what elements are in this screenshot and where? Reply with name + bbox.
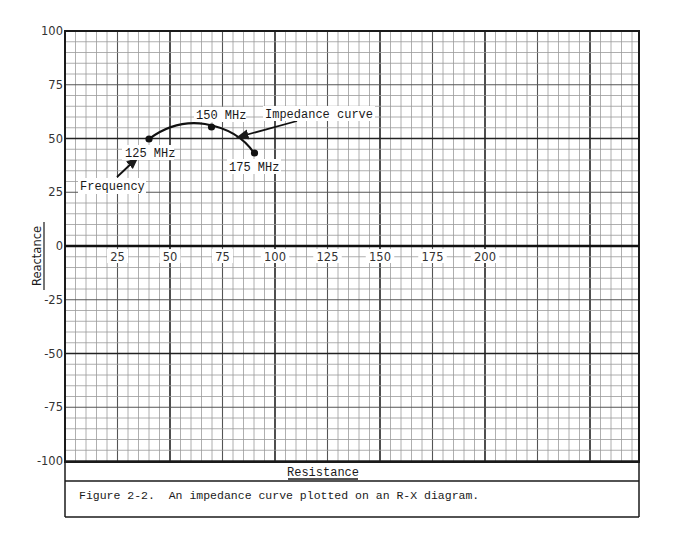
label-125mhz: 125 MHz (125, 147, 175, 161)
label-impedance-curve: Impedance curve (265, 108, 373, 122)
y-tick-label: -25 (44, 293, 63, 307)
rx-diagram: 1007550250-25-50-75-100 2550751001251501… (0, 0, 673, 544)
x-tick-label: 200 (474, 250, 496, 264)
y-tick-label: 50 (48, 132, 63, 146)
point-175mhz (251, 149, 258, 156)
y-tick-label: 25 (48, 185, 63, 199)
x-tick-label: 100 (264, 250, 286, 264)
x-tick-label: 125 (317, 250, 339, 264)
y-tick-label: 0 (56, 239, 63, 253)
x-tick-label: 75 (215, 250, 230, 264)
label-frequency: Frequency (80, 180, 145, 194)
point-125mhz (145, 135, 152, 142)
y-tick-label: 75 (48, 78, 63, 92)
x-tick-label: 175 (422, 250, 444, 264)
figure-caption: Figure 2-2. An impedance curve plotted o… (79, 489, 479, 502)
x-tick-label: 50 (163, 250, 178, 264)
label-175mhz: 175 MHz (229, 161, 279, 175)
x-axis-title: Resistance (287, 466, 359, 480)
frequency-arrow-icon (117, 161, 134, 177)
figure-2-2: 1007550250-25-50-75-100 2550751001251501… (0, 0, 673, 544)
point-150mhz (208, 123, 215, 130)
impedance-curve-arrow-icon (242, 121, 297, 136)
y-tick-label: -75 (44, 400, 63, 414)
y-tick-label: -100 (37, 454, 63, 468)
y-tick-label: 100 (41, 24, 63, 38)
x-tick-label: 25 (110, 250, 125, 264)
y-tick-label: -50 (44, 347, 63, 361)
y-axis-title: Reactance (30, 226, 44, 286)
label-150mhz: 150 MHz (196, 109, 246, 123)
x-tick-label: 150 (369, 250, 391, 264)
y-axis-title-group: Reactance (30, 222, 44, 290)
